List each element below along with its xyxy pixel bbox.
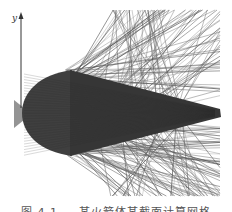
mesh-ray	[171, 45, 220, 102]
mesh-ray	[76, 10, 119, 73]
y-axis-arrow-icon	[19, 12, 24, 19]
y-axis-label: y	[11, 13, 18, 23]
figure-caption: 图 4.1 — 某火箭体某截面计算网格	[0, 203, 232, 212]
mesh-ray	[94, 10, 126, 79]
mesh-figure: y	[0, 0, 232, 212]
